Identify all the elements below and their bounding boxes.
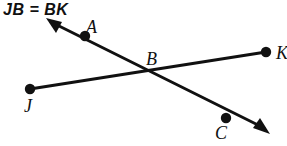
point-label-J: J [24,97,32,115]
point-label-B: B [146,50,157,68]
arrowhead-lower-right-icon [253,118,270,134]
arrowhead-upper-left-icon [46,18,62,33]
geometry-canvas [0,0,287,146]
point-dot-J [25,84,35,94]
geometry-figure: JB = BK A B J K C [0,0,287,146]
figure-title: JB = BK [3,2,68,18]
point-dot-C [221,113,231,123]
point-label-C: C [215,124,227,142]
point-label-A: A [86,18,97,36]
point-label-K: K [276,44,287,62]
point-dot-K [261,47,271,57]
